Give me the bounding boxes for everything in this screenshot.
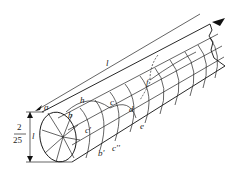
length-dimension-line <box>37 14 200 110</box>
label-e: e <box>140 121 144 131</box>
cylinder-diagram: 2 25 l a b h c c' d e b' c'' f l <box>0 0 242 175</box>
cylinder-top-edge <box>42 24 210 112</box>
label-h: h <box>80 95 85 105</box>
label-a: a <box>44 102 49 112</box>
label-c-prime: c' <box>85 125 92 135</box>
label-length: l <box>106 58 109 68</box>
broken-end <box>209 24 225 66</box>
label-b-prime: b' <box>98 148 106 158</box>
end-face-spokes <box>42 113 80 162</box>
grid-line <box>68 46 222 130</box>
label-d: d <box>129 104 134 114</box>
dimension-numerator: 2 <box>17 122 22 132</box>
dimension-denominator: 25 <box>13 135 23 145</box>
arrow-down-icon <box>27 156 33 162</box>
label-c: c <box>110 97 114 107</box>
label-c-double-prime: c'' <box>112 143 121 153</box>
label-b: b <box>68 110 73 120</box>
arrow-right-icon <box>212 18 225 26</box>
dimension-variable: l <box>32 131 35 141</box>
arrow-up-icon <box>27 112 33 118</box>
